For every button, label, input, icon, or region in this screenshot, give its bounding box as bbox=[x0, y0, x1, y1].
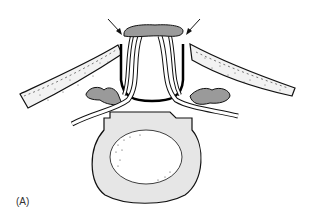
left-arrow bbox=[108, 19, 122, 35]
vertebra-illustration bbox=[0, 0, 311, 220]
vertebral-body bbox=[92, 112, 201, 203]
left-facet bbox=[86, 87, 122, 104]
right-facet bbox=[190, 88, 230, 104]
right-arrow bbox=[186, 19, 200, 35]
nucleus bbox=[110, 130, 182, 184]
panel-label: (A) bbox=[16, 196, 29, 207]
ligamentum-flavum bbox=[124, 25, 183, 37]
